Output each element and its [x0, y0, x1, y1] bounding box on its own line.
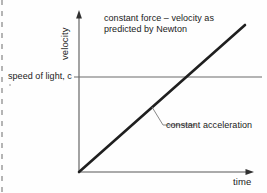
- newton-prediction-annotation: constant force – velocity as predicted b…: [104, 13, 214, 34]
- axes-group: [76, 10, 254, 175]
- y-axis-arrowhead: [76, 10, 82, 19]
- scan-speck: [9, 84, 11, 86]
- scan-artifact-strip: [1, 0, 3, 193]
- x-axis-label: time: [233, 176, 251, 187]
- newton-annotation-line-1: constant force – velocity as: [104, 13, 214, 24]
- velocity-time-figure: velocity time speed of light, c constant…: [0, 0, 267, 193]
- newton-annotation-line-2: predicted by Newton: [104, 24, 214, 35]
- constant-acceleration-line: [79, 25, 245, 172]
- y-axis-label: velocity: [59, 28, 70, 60]
- constant-acceleration-label: constant acceleration: [166, 120, 252, 131]
- x-axis-arrowhead: [246, 169, 255, 175]
- speed-of-light-label: speed of light, c: [8, 71, 72, 82]
